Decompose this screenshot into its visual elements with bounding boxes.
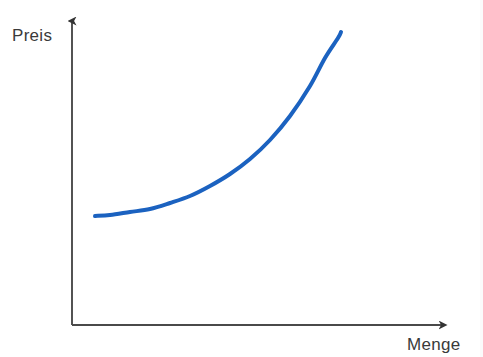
supply-curve-line [95,32,341,216]
y-axis-label: Preis [12,27,52,44]
supply-curve-plot [0,0,483,357]
x-axis-label: Menge [407,336,460,353]
chart-canvas: Preis Menge [0,0,483,357]
